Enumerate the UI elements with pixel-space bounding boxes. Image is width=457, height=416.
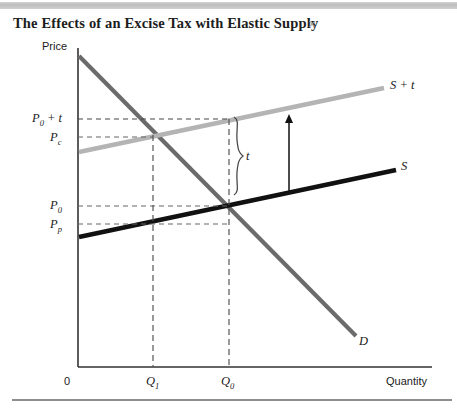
tick-q0-base: Q [221,374,230,388]
tick-p0-plus-t-base: P [32,111,40,125]
excise-tax-chart [0,0,457,416]
tick-pp-sub: p [58,224,62,234]
tax-wedge-label: t [246,149,249,164]
tick-pc-base: P [50,130,58,144]
x-axis-label: Quantity [386,375,427,387]
tick-q1-base: Q [146,374,155,388]
tick-label-pc: Pc [50,130,61,147]
figure-page: The Effects of an Excise Tax with Elasti… [0,0,457,416]
shift-arrow-head [285,114,293,123]
y-axis-label: Price [42,40,67,52]
supply-plus-tax-curve [79,88,384,152]
curve-label-demand: D [359,334,368,349]
tick-label-q0: Q0 [221,374,234,391]
origin-label: 0 [64,375,70,387]
tick-q1-sub: 1 [155,381,159,391]
tick-p0-plus-t-tail: + t [44,111,62,125]
curve-label-supply-plus-tax: S + t [390,78,414,93]
tick-pp-base: P [50,217,58,231]
tax-wedge-brace [234,117,243,195]
tick-label-q1: Q1 [146,374,159,391]
curve-label-supply: S [401,159,407,174]
tick-p0-base: P [50,198,58,212]
demand-curve [79,56,356,336]
tick-q0-sub: 0 [230,381,234,391]
tick-label-p0-plus-t: P0 + t [32,111,62,128]
tick-pc-sub: c [58,137,62,147]
tick-label-p0: P0 [50,198,62,215]
tick-label-pp: Pp [50,217,62,234]
bottom-divider-rule [12,399,452,401]
tick-p0-sub: 0 [58,205,62,215]
